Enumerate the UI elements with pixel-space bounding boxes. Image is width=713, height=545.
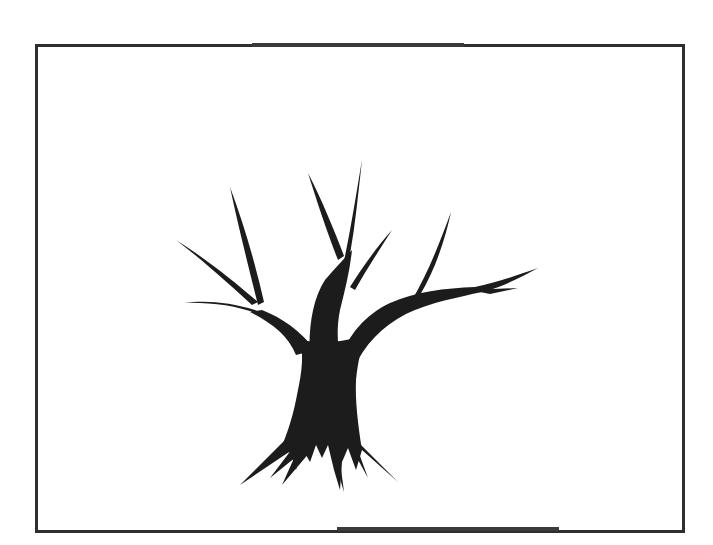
tree-branch-right-upper [412,212,451,300]
tree-branch-center-left [308,173,344,260]
tree-branch-center-right [350,230,392,290]
tree-shape [176,160,538,492]
tree-branch-center-tall [342,160,362,270]
tree-limb-right [340,268,538,360]
tree-silhouette-icon [0,0,713,545]
tree-root-right-2 [356,440,398,482]
tree-limb-left-thick [250,310,315,355]
